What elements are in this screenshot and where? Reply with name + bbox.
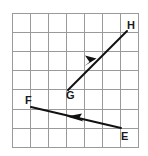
vector-label-f: F	[25, 94, 32, 106]
diagram-canvas: H G F E	[0, 0, 148, 156]
vector-label-e: E	[121, 130, 128, 142]
vector-diagram: H G F E	[0, 0, 148, 156]
vector-label-h: H	[127, 19, 135, 31]
vector-label-g: G	[66, 89, 75, 101]
